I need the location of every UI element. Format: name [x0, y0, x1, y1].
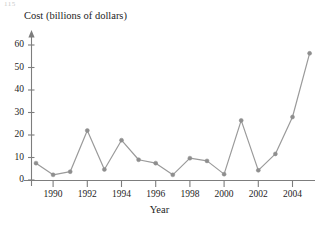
axes: [24, 30, 315, 186]
chart-figure: 115 Cost (billions of dollars) 010203040…: [0, 0, 319, 225]
data-point: [308, 51, 312, 55]
data-point: [68, 170, 72, 174]
data-point: [51, 173, 55, 177]
data-point: [222, 172, 226, 176]
data-point: [256, 168, 260, 172]
data-point: [120, 138, 124, 142]
y-tick-label: 50: [4, 62, 24, 72]
y-tick-label: 60: [4, 39, 24, 49]
y-tick-label: 40: [4, 84, 24, 94]
data-point: [273, 152, 277, 156]
data-point: [137, 158, 141, 162]
data-series-cost: [36, 53, 310, 174]
data-point: [34, 161, 38, 165]
y-tick-label: 30: [4, 107, 24, 117]
data-point: [171, 173, 175, 177]
data-point: [239, 118, 243, 122]
y-tick-label: 10: [4, 152, 24, 162]
data-point: [188, 156, 192, 160]
data-point: [85, 129, 89, 133]
y-tick-label: 0: [4, 174, 24, 184]
x-tick-label: 2004: [273, 189, 313, 199]
data-point: [154, 161, 158, 165]
data-point: [102, 167, 106, 171]
x-axis-label: Year: [0, 204, 319, 215]
y-tick-label: 20: [4, 129, 24, 139]
y-axis-arrow: [28, 30, 34, 38]
data-point: [291, 115, 295, 119]
data-point: [205, 159, 209, 163]
